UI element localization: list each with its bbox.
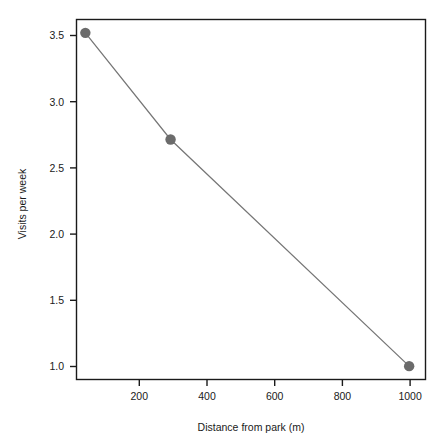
data-point-marker <box>80 28 90 38</box>
data-point-marker <box>165 134 175 144</box>
y-tick-label: 1.0 <box>49 360 64 372</box>
y-tick-label: 3.0 <box>49 96 64 108</box>
x-tick-label: 600 <box>266 390 284 402</box>
y-tick-label: 2.0 <box>49 228 64 240</box>
x-tick-label: 1000 <box>398 390 422 402</box>
data-point-marker <box>404 361 414 371</box>
x-tick-label: 400 <box>198 390 216 402</box>
x-axis-title: Distance from park (m) <box>198 421 305 433</box>
y-tick-label: 3.5 <box>49 29 64 41</box>
x-tick-label: 800 <box>334 390 352 402</box>
y-axis-title: Visits per week <box>16 168 28 239</box>
x-tick-label: 200 <box>131 390 149 402</box>
y-tick-label: 2.5 <box>49 162 64 174</box>
chart-plot-area: 3.5 3.0 2.5 2.0 1.5 1.0 200 400 600 800 … <box>0 0 447 447</box>
y-tick-label: 1.5 <box>49 294 64 306</box>
line-chart: 3.5 3.0 2.5 2.0 1.5 1.0 200 400 600 800 … <box>0 0 447 447</box>
